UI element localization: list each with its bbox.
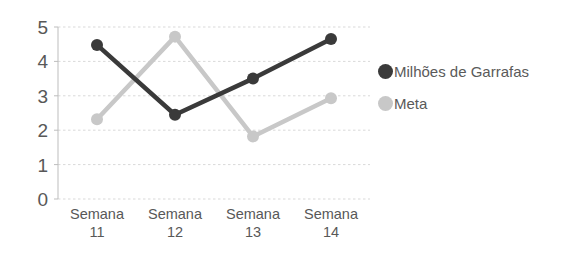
x-tick-label-name: Semana — [214, 205, 292, 223]
legend-item[interactable]: Milhões de Garrafas — [378, 60, 584, 82]
data-point — [169, 109, 181, 121]
legend-label: Milhões de Garrafas — [394, 64, 529, 79]
line-chart: 543210 Semana11Semana12Semana13Semana14 … — [0, 0, 588, 270]
series-line-1 — [97, 37, 331, 137]
x-tick-label-name: Semana — [136, 205, 214, 223]
data-point — [91, 113, 103, 125]
x-tick-label-number: 11 — [58, 223, 136, 241]
legend-marker-circle-icon — [378, 64, 393, 79]
data-point — [169, 31, 181, 43]
data-point — [247, 73, 259, 85]
y-tick-label: 3 — [16, 86, 48, 105]
x-tick-label-name: Semana — [292, 205, 370, 223]
y-axis: 543210 — [16, 0, 48, 270]
x-tick-label-number: 12 — [136, 223, 214, 241]
y-tick-label: 1 — [16, 155, 48, 174]
legend: Milhões de GarrafasMeta — [378, 60, 584, 124]
y-tick-label: 5 — [16, 18, 48, 37]
x-tick-label: Semana13 — [214, 205, 292, 265]
legend-item[interactable]: Meta — [378, 92, 584, 114]
x-axis: Semana11Semana12Semana13Semana14 — [58, 205, 370, 265]
legend-marker-circle-icon — [378, 96, 393, 111]
y-tick-label: 4 — [16, 52, 48, 71]
x-tick-label-number: 14 — [292, 223, 370, 241]
data-point — [247, 130, 259, 142]
data-point — [325, 92, 337, 104]
x-tick-label: Semana14 — [292, 205, 370, 265]
x-tick-label-name: Semana — [58, 205, 136, 223]
data-point — [91, 39, 103, 51]
y-tick-label: 0 — [16, 190, 48, 209]
legend-label: Meta — [394, 96, 427, 111]
x-tick-label-number: 13 — [214, 223, 292, 241]
x-tick-label: Semana12 — [136, 205, 214, 265]
x-tick-label: Semana11 — [58, 205, 136, 265]
data-point — [325, 33, 337, 45]
y-tick-label: 2 — [16, 121, 48, 140]
series-line-0 — [97, 39, 331, 115]
